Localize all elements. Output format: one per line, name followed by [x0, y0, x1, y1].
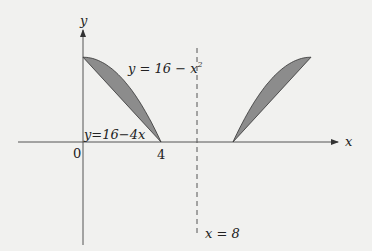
diagram: y x 0 4 y = 16 − x2 y=16−4x x = 8 — [0, 0, 372, 251]
diagram-svg: y x 0 4 y = 16 − x2 y=16−4x x = 8 — [0, 0, 372, 251]
dashed-line-label: x = 8 — [205, 226, 240, 241]
parabola-label: y = 16 − x2 — [127, 60, 203, 76]
line-label: y=16−4x — [83, 127, 146, 142]
right-region — [233, 57, 311, 142]
tick-label-4: 4 — [157, 147, 165, 162]
origin-label: 0 — [73, 146, 81, 161]
y-axis-label: y — [79, 13, 88, 28]
x-axis-label: x — [345, 134, 353, 149]
